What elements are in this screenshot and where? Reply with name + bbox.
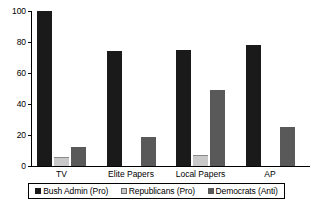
x-axis-label-tv: TV [27, 169, 97, 179]
y-axis-tick-label: 80 [0, 38, 26, 47]
legend-item-republicans-pro[interactable]: Republicans (Pro) [121, 187, 195, 196]
y-axis: 020406080100 [0, 6, 26, 166]
x-axis-line [31, 166, 310, 167]
bar-republicans-pro-local-papers [193, 155, 208, 166]
bar-group [241, 11, 311, 166]
legend-swatch-icon [35, 188, 41, 194]
x-axis-label-elite-papers: Elite Papers [96, 169, 166, 179]
bar-bush-admin-pro-ap [246, 45, 261, 166]
bar-democrats-anti-tv [71, 147, 86, 166]
y-axis-tick-label: 20 [0, 131, 26, 140]
bar-group [102, 11, 172, 166]
legend-item-democrats-anti[interactable]: Democrats (Anti) [208, 187, 278, 196]
bar-bush-admin-pro-elite-papers [107, 51, 122, 166]
legend-item-label: Democrats (Anti) [216, 187, 278, 196]
legend-swatch-icon [121, 188, 127, 194]
chart-legend: Bush Admin (Pro)Republicans (Pro)Democra… [28, 183, 285, 199]
y-axis-tick-label: 100 [0, 7, 26, 16]
bar-democrats-anti-local-papers [210, 90, 225, 166]
legend-swatch-icon [208, 188, 214, 194]
bars-container [32, 11, 310, 166]
plot-area: 020406080100 TVElite PapersLocal PapersA… [0, 6, 318, 174]
bar-bush-admin-pro-local-papers [176, 50, 191, 166]
bar-group [171, 11, 241, 166]
legend-item-bush-admin-pro[interactable]: Bush Admin (Pro) [35, 187, 108, 196]
legend-items: Bush Admin (Pro)Republicans (Pro)Democra… [29, 184, 284, 198]
x-axis-label-ap: AP [235, 169, 305, 179]
x-axis-label-local-papers: Local Papers [166, 169, 236, 179]
bar-bush-admin-pro-tv [37, 11, 52, 166]
bar-democrats-anti-ap [280, 127, 295, 166]
legend-item-label: Republicans (Pro) [129, 187, 195, 196]
y-axis-tick-label: 0 [0, 162, 26, 171]
bar-democrats-anti-elite-papers [141, 137, 156, 166]
bar-republicans-pro-tv [54, 157, 69, 166]
bar-group [32, 11, 102, 166]
y-axis-tick-label: 40 [0, 100, 26, 109]
x-axis-category-labels: TVElite PapersLocal PapersAP [32, 169, 310, 183]
legend-item-label: Bush Admin (Pro) [43, 187, 108, 196]
y-axis-tick-label: 60 [0, 69, 26, 78]
bar-chart: 020406080100 TVElite PapersLocal PapersA… [0, 0, 318, 210]
